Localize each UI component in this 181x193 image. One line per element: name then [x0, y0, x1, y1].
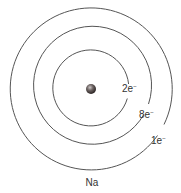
- shell-2-label: 8e−: [139, 109, 154, 120]
- shell-3-label: 1e−: [151, 135, 166, 146]
- nucleus: [86, 84, 96, 94]
- bohr-model-diagram: 2e− 8e− 1e− Na: [0, 0, 181, 193]
- shell-1-label: 2e−: [122, 83, 137, 94]
- element-label: Na: [86, 177, 99, 188]
